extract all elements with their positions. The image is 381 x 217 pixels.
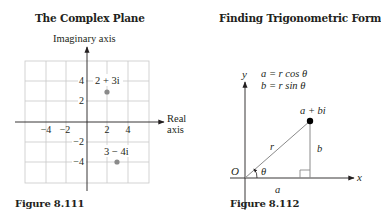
equation-b: b = r sin θ [261, 80, 305, 91]
y-tick: −2 [73, 136, 84, 147]
y-tick: 2 [79, 95, 84, 106]
y-tick: −4 [73, 156, 84, 167]
point-2-plus-3i [104, 89, 109, 94]
point-3-minus-4i [114, 159, 119, 164]
x-tick: −2 [60, 124, 71, 135]
a-label: a [275, 184, 280, 195]
right-figure-caption: Figure 8.112 [230, 198, 299, 209]
x-tick: 4 [126, 124, 131, 135]
imaginary-axis-label: Imaginary axis [53, 33, 116, 44]
r-label: r [270, 141, 275, 152]
x-tick: 2 [105, 124, 110, 135]
right-angle-marker [300, 170, 310, 178]
real-axis-label-line1: Real [167, 113, 186, 124]
x-tick: −4 [41, 124, 52, 135]
equation-a: a = r cos θ [261, 68, 307, 79]
point-label-a-plus-bi: a + bi [300, 105, 326, 116]
y-tick: 4 [79, 75, 84, 86]
real-axis-label-line2: axis [167, 124, 184, 135]
point-a-plus-bi [307, 118, 313, 124]
b-label: b [317, 143, 322, 154]
left-figure-caption: Figure 8.111 [15, 198, 84, 209]
point-label-3-minus-4i: 3 − 4i [104, 146, 129, 157]
complex-plane: Imaginary axis Real axis −4 −2 2 4 4 2 −… [15, 33, 186, 191]
theta-label: θ [261, 166, 266, 177]
trig-form-diagram: y x O a = r cos θ b = r sin θ θ a + bi r… [230, 68, 362, 210]
y-axis-label: y [241, 68, 247, 80]
point-label-2-plus-3i: 2 + 3i [95, 75, 120, 86]
origin-label: O [231, 165, 239, 177]
x-axis-label: x [356, 171, 362, 183]
